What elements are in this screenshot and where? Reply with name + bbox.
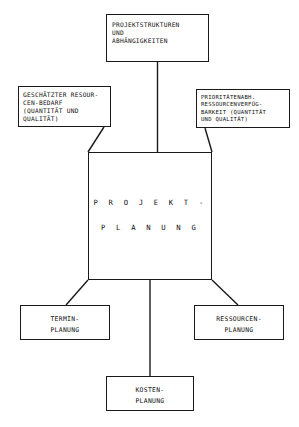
node-projektplanung: P R O J E K T - P L A N U N G bbox=[88, 152, 212, 280]
node-ressourcenplanung-label-line2: PLANUNG bbox=[195, 325, 283, 335]
node-ressourcenplanung-label-line1: RESSOURCEN- bbox=[195, 314, 283, 324]
node-geschaetzter-ressourcenbedarf-label: GESCHÄTZTER RESOUR- CEN-BEDARF (QUANTITÄ… bbox=[23, 91, 99, 123]
node-terminplanung-label-line2: PLANUNG bbox=[21, 325, 109, 335]
node-kostenplanung-label-line1: KOSTEN- bbox=[107, 385, 193, 395]
node-prioritaetenabh-ressourcenverfuegbarkeit: PRIORITÄTENABH. RESSOURCENVERFÜG- BARKEI… bbox=[196, 89, 290, 128]
connector-right-to-center bbox=[205, 128, 212, 152]
node-kostenplanung: KOSTEN- PLANUNG bbox=[106, 376, 194, 411]
node-ressourcenplanung: RESSOURCEN- PLANUNG bbox=[194, 305, 284, 340]
node-projektstrukturen-label: PROJEKTSTRUKTUREN UND ABHÄNGIGKEITEN bbox=[112, 21, 180, 45]
node-projektplanung-label-line2: P L A N U N G bbox=[89, 223, 211, 232]
diagram-canvas: PROJEKTSTRUKTUREN UND ABHÄNGIGKEITEN GES… bbox=[0, 0, 299, 427]
node-prioritaetenabh-ressourcenverfuegbarkeit-label: PRIORITÄTENABH. RESSOURCENVERFÜG- BARKEI… bbox=[201, 94, 266, 124]
node-projektstrukturen: PROJEKTSTRUKTUREN UND ABHÄNGIGKEITEN bbox=[106, 14, 209, 62]
node-terminplanung: TERMIN- PLANUNG bbox=[20, 305, 110, 340]
connector-center-to-ressourcen bbox=[212, 280, 238, 305]
node-projektplanung-label-line1: P R O J E K T - bbox=[89, 198, 211, 207]
node-kostenplanung-label-line2: PLANUNG bbox=[107, 396, 193, 406]
connector-left-to-center bbox=[88, 127, 104, 152]
node-geschaetzter-ressourcenbedarf: GESCHÄTZTER RESOUR- CEN-BEDARF (QUANTITÄ… bbox=[18, 86, 111, 127]
connector-center-to-termin bbox=[66, 280, 88, 305]
node-terminplanung-label-line1: TERMIN- bbox=[21, 314, 109, 324]
